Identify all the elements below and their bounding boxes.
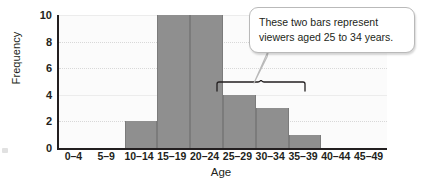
- x-axis-tick-labels: 0–45–910–1415–1920–2425–2930–3435–3940–4…: [57, 150, 385, 166]
- x-tick-label: 10–14: [124, 150, 153, 162]
- y-tick-label: 10: [24, 9, 52, 21]
- y-tick-label: 0: [24, 142, 52, 154]
- x-tick-label: 0–4: [65, 150, 83, 162]
- x-tick-label: 45–49: [354, 150, 383, 162]
- y-tick-label: 2: [24, 115, 52, 127]
- y-axis-label: Frequency: [10, 18, 22, 98]
- x-tick-label: 25–29: [223, 150, 252, 162]
- x-axis-label: Age: [57, 166, 385, 178]
- y-tick-label: 4: [24, 89, 52, 101]
- callout-tail-icon: [247, 49, 281, 85]
- x-tick-label: 40–44: [321, 150, 350, 162]
- x-tick-label: 20–24: [190, 150, 219, 162]
- callout-annotation: These two bars represent viewers aged 25…: [249, 7, 415, 53]
- x-tick-label: 30–34: [256, 150, 285, 162]
- bar: [289, 135, 322, 148]
- callout-text-line2: viewers aged 25 to 34 years.: [259, 31, 393, 43]
- bar: [125, 121, 158, 148]
- y-tick-label: 6: [24, 62, 52, 74]
- y-axis-tick-labels: 0 2 4 6 8 10: [24, 0, 52, 187]
- edge-artifact: [2, 148, 8, 153]
- callout-bubble: These two bars represent viewers aged 25…: [249, 7, 415, 53]
- y-tick-label: 8: [24, 36, 52, 48]
- x-tick-label: 5–9: [97, 150, 115, 162]
- histogram-figure: Frequency 0 2 4 6 8 10 0–45–910–1415–192…: [0, 0, 425, 187]
- x-tick-label: 35–39: [288, 150, 317, 162]
- x-tick-label: 15–19: [157, 150, 186, 162]
- callout-text: These two bars represent viewers aged 25…: [259, 15, 409, 45]
- bar: [157, 15, 190, 148]
- bar: [223, 95, 256, 148]
- callout-text-line1: These two bars represent: [259, 16, 378, 28]
- bar: [256, 108, 289, 148]
